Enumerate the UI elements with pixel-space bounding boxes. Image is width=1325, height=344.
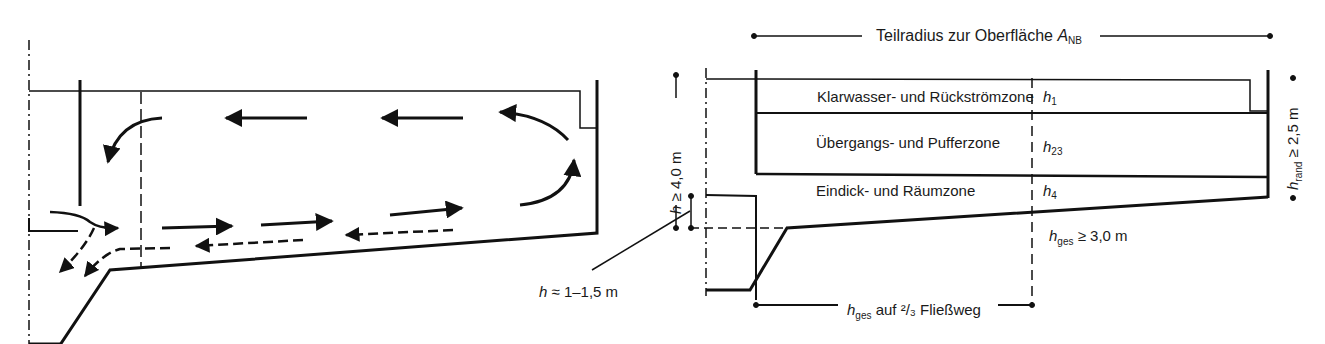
h-edge-label: hrand ≥ 2,5 m — [1284, 108, 1304, 190]
zone-thickening-label: Eindick- und Räumzone — [816, 182, 975, 199]
flow-arrow-curve — [520, 160, 574, 205]
zone-h1-label: h1 — [1043, 88, 1057, 107]
flow-arrow — [162, 226, 232, 228]
left-basin-section — [29, 40, 597, 344]
return-flow-arrow — [346, 230, 453, 235]
water-surface-line — [29, 91, 597, 128]
zone-transition-label: Übergangs- und Pufferzone — [816, 134, 1000, 151]
inlet-pipe — [29, 218, 78, 231]
diagram-svg: h ≥ 4,0 m h ≈ 1–1,5 m — [0, 0, 1325, 344]
leader-line — [592, 211, 690, 270]
flow-arrow — [390, 208, 462, 215]
inlet-pipe — [706, 195, 756, 300]
return-flow-arrow — [196, 240, 303, 246]
flow-arrow-curve — [500, 112, 568, 140]
basin-floor — [706, 197, 1268, 290]
zone-clearwater-label: Klarwasser- und Rückströmzone — [817, 88, 1034, 105]
h-min-total-label: h ≥ 4,0 m — [667, 152, 684, 214]
zone-h23-label: h23 — [1043, 138, 1063, 157]
h-inlet-label: h ≈ 1–1,5 m — [539, 283, 618, 300]
partial-radius-label: Teilradius zur Oberfläche ANB — [876, 27, 1082, 46]
zone-h4-label: h4 — [1043, 182, 1057, 201]
right-basin-section — [690, 34, 1296, 308]
diagram-canvas: h ≥ 4,0 m h ≈ 1–1,5 m — [0, 0, 1325, 344]
flow-arrow-curve — [108, 118, 162, 162]
flowpath-dimension-label: hges auf ²/₃ Fließweg — [847, 301, 981, 321]
inflow-arrow — [50, 212, 118, 228]
zone-divider-2 — [756, 174, 1268, 177]
basin-floor — [29, 232, 597, 344]
return-flow-arrow — [85, 248, 170, 276]
flow-arrow — [261, 221, 332, 225]
h-total-label: hges ≥ 3,0 m — [1049, 227, 1128, 247]
return-flow-arrow — [60, 228, 94, 272]
